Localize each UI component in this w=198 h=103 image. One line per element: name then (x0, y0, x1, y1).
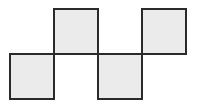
square-2 (53, 8, 99, 55)
square-4 (141, 8, 187, 55)
square-1 (9, 53, 55, 100)
square-3 (97, 53, 143, 100)
square-zigzag-diagram (0, 0, 198, 103)
